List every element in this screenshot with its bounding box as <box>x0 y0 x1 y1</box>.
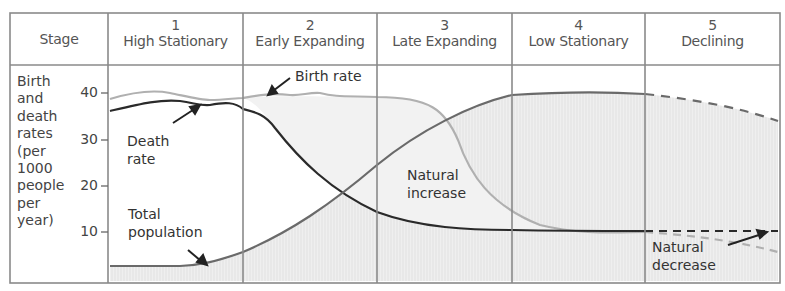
stage-5-name: Declining <box>681 33 744 49</box>
natural-increase-label-line: increase <box>407 184 466 202</box>
stage-3-number: 3 <box>377 17 512 33</box>
death-rate-label-line: Death <box>127 132 169 150</box>
y-tick-10: 10 <box>68 223 98 239</box>
death-rate-label: Death rate <box>127 132 169 168</box>
total-population-label: Total population <box>128 205 203 241</box>
y-axis-title-line: year) <box>17 212 64 229</box>
total-population-label-line: population <box>128 223 203 241</box>
stage-1-name: High Stationary <box>123 33 228 49</box>
y-axis-title: Birth and death rates (per 1000 people p… <box>17 73 64 230</box>
y-tick-40: 40 <box>68 84 98 100</box>
natural-increase-label: Natural increase <box>407 166 466 202</box>
stage-4-number: 4 <box>512 17 645 33</box>
natural-increase-label-line: Natural <box>407 166 466 184</box>
birth-rate-label: Birth rate <box>295 67 362 85</box>
y-axis-title-line: Birth <box>17 73 64 90</box>
y-axis-title-line: per <box>17 195 64 212</box>
header-stage-5: 5 Declining <box>645 17 780 49</box>
stage-1-number: 1 <box>108 17 243 33</box>
stage-5-number: 5 <box>645 17 780 33</box>
y-tick-20: 20 <box>68 177 98 193</box>
header-stage-4: 4 Low Stationary <box>512 17 645 49</box>
header-stage-3: 3 Late Expanding <box>377 17 512 49</box>
y-axis-ticks <box>101 93 108 232</box>
y-tick-30: 30 <box>68 131 98 147</box>
natural-decrease-label-line: decrease <box>652 256 716 274</box>
y-axis-title-line: rates <box>17 125 64 142</box>
y-axis-title-line: (per <box>17 143 64 160</box>
header-stage-2: 2 Early Expanding <box>243 17 377 49</box>
natural-decrease-label: Natural decrease <box>652 238 716 274</box>
stage-2-number: 2 <box>243 17 377 33</box>
y-axis-title-line: 1000 <box>17 160 64 177</box>
y-axis-title-line: death <box>17 108 64 125</box>
natural-decrease-label-line: Natural <box>652 238 716 256</box>
y-axis-title-line: and <box>17 90 64 107</box>
stage-2-name: Early Expanding <box>255 33 364 49</box>
total-population-label-line: Total <box>128 205 203 223</box>
y-axis-title-line: people <box>17 177 64 194</box>
stage-4-name: Low Stationary <box>528 33 628 49</box>
death-rate-label-line: rate <box>127 150 169 168</box>
header-stage-1: 1 High Stationary <box>108 17 243 49</box>
header-stage-label: Stage <box>10 31 108 47</box>
stage-3-name: Late Expanding <box>392 33 497 49</box>
